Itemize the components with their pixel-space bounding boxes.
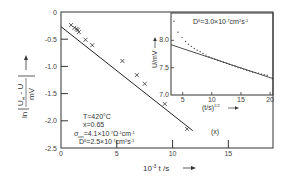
main-data-point — [69, 23, 73, 27]
inset-data-point — [202, 53, 203, 54]
main-x-tick-label: 5 — [115, 150, 119, 157]
chart: 051015 0-0.5-1.0-1.5-2.0-2.5 ln U∞ - U m… — [0, 0, 287, 179]
inset-data-point — [255, 72, 256, 73]
y-label-ln: ln — [20, 112, 29, 118]
inset-data-point — [226, 63, 227, 64]
inset-data-point — [194, 48, 195, 49]
inset-y-tick-label: 8.0 — [159, 36, 169, 43]
main-data-point — [90, 43, 94, 47]
main-y-tick-label: -2.5 — [45, 145, 57, 152]
inset-x-label-exp: 1/2 — [214, 103, 220, 108]
inset-plot: 5101520 7.07.58.0 U/mV (t/s)1/2 Dδ=3.0×1… — [151, 13, 274, 136]
main-fit-line — [61, 27, 193, 131]
inset-data-point — [258, 72, 259, 73]
inset-fit-line — [171, 45, 273, 79]
main-data-point — [185, 127, 189, 131]
main-plot: 051015 0-0.5-1.0-1.5-2.0-2.5 ln U∞ - U m… — [16, 9, 273, 174]
main-y-tick-label: -0.5 — [45, 36, 57, 43]
inset-annotation-diffusion: Dδ=3.0×10-7cm2s-1 — [193, 18, 249, 26]
inset-y-arrow-icon — [153, 37, 157, 41]
main-y-tick-label: -1.5 — [45, 90, 57, 97]
inset-plot-frame — [171, 13, 273, 95]
inset-data-point — [197, 49, 198, 50]
inset-x-tick-label: 20 — [266, 96, 274, 103]
inset-data-point — [252, 71, 253, 72]
main-x-axis-label: 10-3 t /s — [143, 163, 196, 173]
annotation-temperature: T=420°C — [83, 113, 111, 120]
ann-sigma-cm: cm — [122, 130, 132, 137]
inset-data-point — [214, 58, 215, 59]
main-y-tick-label: 0 — [53, 9, 57, 16]
inset-data-point — [240, 68, 241, 69]
inset-data-point — [217, 59, 218, 60]
ann-sigma-cm-exp: -1 — [131, 130, 135, 135]
inset-data-point — [199, 51, 200, 52]
x-label-rest: t /s — [156, 164, 169, 173]
annotation-x: x=0.65 — [83, 121, 104, 128]
inset-data-point — [249, 70, 250, 71]
y-label-numerator: U∞ - U — [16, 84, 26, 106]
y-label-arrow-icon — [24, 55, 28, 60]
main-fit-line-group — [61, 27, 193, 131]
inset-x-label-text: (t/s)1/2 — [202, 103, 220, 112]
main-data-point — [163, 102, 167, 106]
ann-D-inset-s-exp: -1 — [245, 18, 249, 23]
inset-x-tick-label: 5 — [181, 96, 185, 103]
ann-D-inset-unit: cm — [230, 18, 240, 25]
main-x-tick-label: 15 — [224, 150, 232, 157]
ann-sigma-val: =4.1×10 — [84, 130, 110, 137]
main-x-tick-label: 0 — [59, 150, 63, 157]
ann-D-main-unit: cm — [116, 138, 126, 145]
inset-x-arrow-icon — [235, 106, 239, 109]
inset-data-point — [232, 65, 233, 66]
main-data-point — [135, 73, 139, 77]
main-y-tick-label: -2.0 — [45, 117, 57, 124]
x-label-text: 10-3 t /s — [143, 163, 169, 173]
inset-data-point — [223, 62, 224, 63]
inset-x-ticks: 5101520 — [181, 92, 274, 103]
inset-data-point — [173, 21, 174, 22]
inset-y-tick-label: 7.0 — [159, 91, 169, 98]
ann-D-main-val: =2.5×10 — [86, 138, 112, 145]
y-label-num-rest: - U — [16, 84, 25, 97]
annotation-diffusion-main: Dδ=2.5×10-7cm2s-1 — [79, 138, 135, 146]
main-x-tick-label: 10 — [169, 150, 177, 157]
inset-data-point — [237, 67, 238, 68]
inset-x-label-base: (t/s) — [202, 104, 214, 112]
inset-x-tick-label: 10 — [208, 96, 216, 103]
inset-data-point — [177, 31, 178, 32]
inset-tag: (x) — [211, 128, 219, 136]
inset-data-point — [191, 46, 192, 47]
inset-data-point — [266, 75, 267, 76]
inset-x-tick-label: 15 — [237, 96, 245, 103]
main-y-tick-label: -1.0 — [45, 63, 57, 70]
main-y-axis-label: ln U∞ - U mV — [16, 55, 36, 118]
inset-data-point — [220, 60, 221, 61]
ann-D-inset-val: =3.0×10 — [200, 18, 226, 25]
inset-data-point — [261, 74, 262, 75]
inset-data-point — [243, 69, 244, 70]
y-label-denominator: mV — [27, 87, 36, 100]
main-data-point — [143, 82, 147, 86]
inset-data-point — [188, 43, 189, 44]
inset-data-point — [264, 74, 265, 75]
inset-data-point — [185, 41, 186, 42]
inset-x-axis-label: (t/s)1/2 — [202, 103, 239, 112]
inset-data-point — [208, 56, 209, 57]
inset-data-point — [229, 64, 230, 65]
main-data-point — [120, 59, 124, 63]
inset-data-point — [181, 37, 182, 38]
inset-data-point — [246, 70, 247, 71]
inset-data-point — [211, 57, 212, 58]
inset-data-point — [205, 54, 206, 55]
inset-data-point — [234, 66, 235, 67]
inset-y-axis-label: U/mV — [151, 37, 158, 68]
main-data-point — [84, 38, 88, 42]
inset-data-points — [173, 21, 268, 77]
inset-y-ticks: 7.07.58.0 — [159, 36, 174, 98]
inset-y-label-text: U/mV — [151, 50, 158, 68]
ann-D-main-s-exp: -1 — [131, 138, 135, 143]
x-label-arrow-icon — [191, 166, 196, 170]
inset-y-tick-label: 7.5 — [159, 64, 169, 71]
main-annotations: T=420°C x=0.65 σion=4.1×10-7Ω-1cm-1 Dδ=2… — [74, 113, 135, 145]
